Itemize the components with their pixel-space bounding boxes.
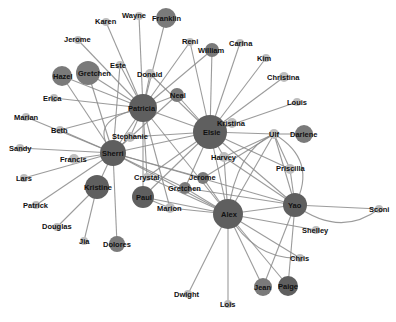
node-label-jerome: Jerome: [64, 35, 91, 44]
node-label-kristina: Kristina: [217, 119, 246, 128]
node-label-christina: Christina: [267, 73, 300, 82]
node-label-neal: Neal: [170, 91, 186, 100]
node-label-jerome2: Jerome: [189, 173, 216, 182]
node-label-erica: Erica: [43, 94, 62, 103]
node-label-ulf: Ulf: [269, 130, 280, 139]
node-label-douglas: Douglas: [42, 222, 72, 231]
node-label-william: William: [198, 46, 225, 55]
node-label-lars: Lars: [16, 174, 32, 183]
node-label-shelley: Shelley: [302, 226, 329, 235]
node-label-marion: Marion: [157, 204, 182, 213]
node-label-beth: Beth: [51, 126, 68, 135]
node-label-francis: Francis: [60, 155, 87, 164]
node-label-louis: Louis: [287, 98, 307, 107]
node-label-reni: Reni: [182, 37, 198, 46]
node-label-alex: Alex: [221, 210, 238, 219]
node-label-kristine: Kristine: [84, 183, 112, 192]
node-label-chris: Chris: [290, 254, 309, 263]
node-label-gretchen2: Gretchen: [168, 184, 201, 193]
node-label-paige: Paige: [278, 282, 298, 291]
node-label-carina: Carina: [229, 39, 253, 48]
node-label-elsie: Elsie: [203, 128, 221, 137]
node-label-priscilla: Priscilla: [276, 164, 306, 173]
node-label-darlene: Darlene: [290, 130, 318, 139]
curved-edge-yao-sconi: [295, 205, 379, 223]
network-graph: WayneFranklinKarenJeromeEsteHazelGretche…: [0, 0, 396, 322]
node-label-jean: Jean: [254, 283, 272, 292]
edge-sherri-dolores: [113, 153, 117, 244]
node-label-sconi: Sconi: [369, 205, 389, 214]
node-label-sherri: Sherri: [102, 149, 124, 158]
node-label-harvey: Harvey: [211, 153, 237, 162]
node-label-hazel: Hazel: [53, 72, 73, 81]
node-label-paul: Paul: [136, 193, 152, 202]
node-label-dwight: Dwight: [174, 290, 199, 299]
node-label-sandy: Sandy: [9, 144, 32, 153]
node-label-marian: Marian: [14, 113, 39, 122]
node-label-kim: Kim: [257, 54, 272, 63]
node-label-franklin: Franklin: [152, 14, 182, 23]
node-label-karen: Karen: [95, 17, 117, 26]
node-label-dolores: Dolores: [103, 240, 131, 249]
edge-yao-paige: [288, 205, 295, 286]
node-label-wayne: Wayne: [122, 11, 146, 20]
edge-sherri-sandy: [20, 148, 113, 153]
node-label-este: Este: [110, 61, 126, 70]
labels-layer: WayneFranklinKarenJeromeEsteHazelGretche…: [9, 11, 389, 309]
node-label-patricia: Patricia: [128, 104, 156, 113]
edge-yao-sconi: [295, 205, 379, 209]
node-label-crystal: Crystal: [134, 173, 159, 182]
node-label-jia: Jia: [79, 237, 90, 246]
node-label-patrick: Patrick: [23, 201, 49, 210]
node-label-yao: Yao: [288, 201, 302, 210]
node-label-donald: Donald: [137, 70, 163, 79]
node-label-stephanie: Stephanie: [112, 132, 148, 141]
node-label-lois: Lois: [220, 300, 235, 309]
node-label-gretchen: Gretchen: [78, 69, 111, 78]
